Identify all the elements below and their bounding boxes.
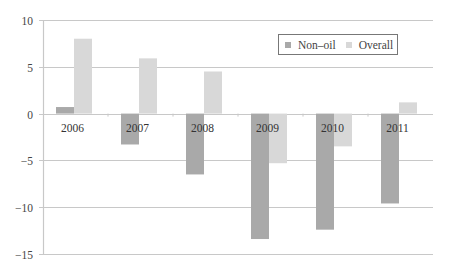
y-tick-label: 5 [27, 62, 33, 74]
legend-swatch-non-oil [285, 42, 291, 48]
y-tick-label: 0 [27, 109, 33, 121]
x-axis-labels: 200620072008200920102011 [61, 122, 409, 134]
bars [56, 39, 417, 239]
bar-overall-2008 [204, 71, 222, 113]
x-category-label: 2011 [386, 122, 409, 134]
bar-overall-2011 [399, 102, 417, 113]
y-tick-label: −5 [21, 155, 33, 167]
legend-label-overall: Overall [359, 39, 393, 51]
legend: Non–oil Overall [278, 34, 398, 55]
x-category-label: 2008 [191, 122, 214, 134]
bar-overall-2006 [74, 39, 92, 114]
x-category-label: 2009 [256, 122, 279, 134]
x-category-label: 2007 [126, 122, 149, 134]
legend-item-non-oil: Non–oil [285, 39, 336, 51]
legend-label-non-oil: Non–oil [298, 39, 336, 51]
x-category-label: 2006 [61, 122, 84, 134]
legend-swatch-overall [346, 42, 352, 48]
legend-item-overall: Overall [346, 39, 393, 51]
y-tick-label: −15 [15, 249, 33, 261]
y-tick-label: −10 [15, 202, 33, 214]
gridlines [39, 21, 433, 255]
bar-nonoil-2006 [56, 107, 74, 114]
bar-overall-2007 [139, 58, 157, 113]
x-category-label: 2010 [321, 122, 344, 134]
y-tick-label: 10 [22, 15, 34, 27]
y-axis: 1050−5−10−15 [15, 15, 44, 261]
